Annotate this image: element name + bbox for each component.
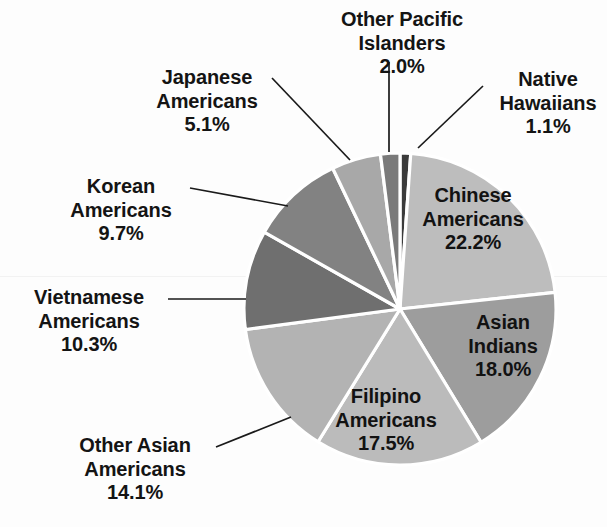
label-asian-indians-percent: 18.0% <box>448 358 558 382</box>
label-native-hawaiians: Native Hawaiians 1.1% <box>489 68 607 139</box>
label-japanese-americans-percent: 5.1% <box>143 113 271 137</box>
label-asian-indians: Asian Indians 18.0% <box>448 311 558 382</box>
label-other-asian-americans-percent: 14.1% <box>57 481 213 505</box>
label-japanese-americans-line2: Americans <box>143 90 271 114</box>
label-other-asian-americans: Other Asian Americans 14.1% <box>57 434 213 505</box>
label-vietnamese-americans: Vietnamese Americans 10.3% <box>15 286 163 357</box>
leader-line-korean-americans <box>190 188 288 206</box>
leader-line-other-asian-americans <box>216 417 291 447</box>
leader-line-native-hawaiians <box>418 86 483 148</box>
label-other-asian-americans-line1: Other Asian <box>57 434 213 458</box>
label-native-hawaiians-line2: Hawaiians <box>489 92 607 116</box>
label-korean-americans-line1: Korean <box>57 175 185 199</box>
label-japanese-americans-line1: Japanese <box>143 66 271 90</box>
label-other-asian-americans-line2: Americans <box>57 458 213 482</box>
label-filipino-americans: Filipino Americans 17.5% <box>318 385 454 456</box>
label-korean-americans-line2: Americans <box>57 199 185 223</box>
label-vietnamese-americans-percent: 10.3% <box>15 333 163 357</box>
label-asian-indians-line2: Indians <box>448 335 558 359</box>
label-filipino-americans-line2: Americans <box>318 409 454 433</box>
pie-chart-figure: Other Pacific Islanders 2.0% Native Hawa… <box>0 0 607 527</box>
leader-line-japanese-americans <box>272 78 350 160</box>
label-korean-americans-percent: 9.7% <box>57 222 185 246</box>
label-vietnamese-americans-line1: Vietnamese <box>15 286 163 310</box>
label-korean-americans: Korean Americans 9.7% <box>57 175 185 246</box>
label-chinese-americans-line1: Chinese <box>409 184 537 208</box>
label-vietnamese-americans-line2: Americans <box>15 310 163 334</box>
label-chinese-americans-line2: Americans <box>409 208 537 232</box>
label-native-hawaiians-line1: Native <box>489 68 607 92</box>
label-asian-indians-line1: Asian <box>448 311 558 335</box>
label-other-pacific-islanders-line2: Islanders <box>322 32 482 56</box>
label-chinese-americans-percent: 22.2% <box>409 231 537 255</box>
label-other-pacific-islanders-line1: Other Pacific <box>322 8 482 32</box>
label-chinese-americans: Chinese Americans 22.2% <box>409 184 537 255</box>
label-japanese-americans: Japanese Americans 5.1% <box>143 66 271 137</box>
label-other-pacific-islanders: Other Pacific Islanders 2.0% <box>322 8 482 79</box>
label-other-pacific-islanders-percent: 2.0% <box>322 55 482 79</box>
label-filipino-americans-line1: Filipino <box>318 385 454 409</box>
label-filipino-americans-percent: 17.5% <box>318 432 454 456</box>
label-native-hawaiians-percent: 1.1% <box>489 115 607 139</box>
